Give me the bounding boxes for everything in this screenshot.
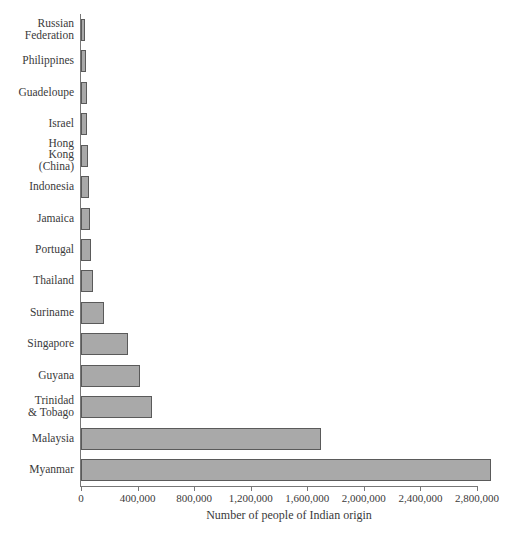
bar [81, 396, 152, 418]
bar-row: Thailand [0, 266, 518, 297]
bar-row: Malaysia [0, 423, 518, 454]
x-tick-mark [307, 486, 308, 491]
bar [81, 459, 491, 481]
bar-category-label: Thailand [0, 276, 74, 288]
bar-category-label: Myanmar [0, 464, 74, 476]
bar [81, 270, 93, 292]
bar [81, 239, 91, 261]
bar-category-label: Jamaica [0, 213, 74, 225]
x-tick-mark [477, 486, 478, 491]
bar-row: Trinidad & Tobago [0, 392, 518, 423]
bar-row: Israel [0, 108, 518, 139]
x-tick-mark [138, 486, 139, 491]
x-tick-label: 1,600,000 [285, 492, 329, 504]
bar [81, 113, 87, 135]
bar [81, 302, 104, 324]
bar-row: Indonesia [0, 171, 518, 202]
bar-row: Suriname [0, 297, 518, 328]
bar-row: Guyana [0, 360, 518, 391]
x-tick-label: 2,400,000 [398, 492, 442, 504]
x-tick-mark [81, 486, 82, 491]
x-tick-label: 2,000,000 [342, 492, 386, 504]
bar [81, 428, 321, 450]
bar-row: Guadeloupe [0, 77, 518, 108]
bar-row: Philippines [0, 45, 518, 76]
bar-category-label: Guyana [0, 370, 74, 382]
bar [81, 50, 86, 72]
bar-category-label: Singapore [0, 338, 74, 350]
bar-chart: Russian FederationPhilippinesGuadeloupeI… [0, 0, 518, 541]
x-tick-mark [364, 486, 365, 491]
bar [81, 145, 88, 167]
bar [81, 19, 85, 41]
bar-rows: Russian FederationPhilippinesGuadeloupeI… [0, 14, 518, 486]
bar-category-label: Suriname [0, 307, 74, 319]
bar-row: Portugal [0, 234, 518, 265]
bar-category-label: Hong Kong (China) [0, 138, 74, 173]
bar-category-label: Malaysia [0, 433, 74, 445]
bar-row: Hong Kong (China) [0, 140, 518, 171]
bar-category-label: Portugal [0, 244, 74, 256]
bar [81, 82, 87, 104]
bar-category-label: Russian Federation [0, 18, 74, 42]
bar-row: Jamaica [0, 203, 518, 234]
x-tick-mark [251, 486, 252, 491]
bar [81, 333, 128, 355]
x-tick-mark [420, 486, 421, 491]
bar-category-label: Indonesia [0, 181, 74, 193]
x-tick-label: 400,000 [120, 492, 156, 504]
bar-category-label: Guadeloupe [0, 87, 74, 99]
bar [81, 208, 90, 230]
x-tick-label: 1,200,000 [229, 492, 273, 504]
bar-row: Russian Federation [0, 14, 518, 45]
x-tick-label: 0 [78, 492, 84, 504]
bar-category-label: Israel [0, 118, 74, 130]
x-tick-label: 2,800,000 [455, 492, 499, 504]
bar-row: Myanmar [0, 455, 518, 486]
x-axis-title-text: Number of people of Indian origin [206, 508, 372, 523]
bar-category-label: Philippines [0, 55, 74, 67]
bar [81, 176, 89, 198]
x-tick-label: 800,000 [176, 492, 212, 504]
x-axis-title: Number of people of Indian origin [0, 508, 518, 523]
bar [81, 365, 140, 387]
bar-category-label: Trinidad & Tobago [0, 396, 74, 420]
x-tick-mark [194, 486, 195, 491]
bar-row: Singapore [0, 329, 518, 360]
